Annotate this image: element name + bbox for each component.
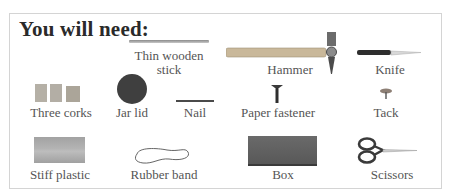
item-label-paper-fastener: Paper fastener [240,106,316,120]
plastic-icon [34,137,85,163]
item-label-hammer: Hammer [260,63,320,77]
item-label-box: Box [263,168,303,182]
tack-icon [379,88,393,99]
item-label-three-corks: Three corks [26,106,96,120]
jar-lid-icon [117,74,147,104]
corks-icon [35,84,85,102]
item-label-stick: Thin wooden stick [119,49,219,77]
item-label-knife: Knife [370,63,410,77]
item-label-nail: Nail [180,106,210,120]
box-icon [248,136,317,166]
scissors-icon [357,137,419,165]
paper-fastener-icon [271,85,283,103]
item-label-jar-lid: Jar lid [112,106,152,120]
item-label-rubber-band: Rubber band [128,168,200,182]
stick-icon [129,40,209,43]
knife-icon [357,48,423,58]
item-label-scissors: Scissors [368,168,416,182]
item-label-stiff-plastic: Stiff plastic [24,168,96,182]
rubber-band-icon [133,146,191,166]
nail-icon [176,100,214,102]
item-label-tack: Tack [370,106,402,120]
section-title: You will need: [19,17,149,42]
